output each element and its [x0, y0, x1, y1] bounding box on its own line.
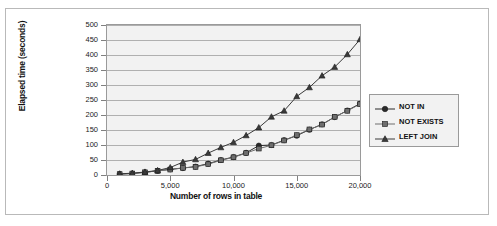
- y-axis-title: Elapsed time (seconds): [17, 6, 27, 126]
- y-axis-tick-label: 50: [72, 155, 98, 164]
- series-layer: [107, 25, 360, 175]
- legend-label: NOT EXISTS: [399, 117, 444, 126]
- series-marker: [269, 143, 274, 148]
- y-axis-tick-label: 450: [72, 35, 98, 44]
- legend-marker-icon: [374, 116, 396, 128]
- series-marker: [332, 114, 337, 119]
- series-marker: [243, 132, 249, 138]
- x-axis-tick-label: 0: [85, 181, 129, 190]
- series-marker: [231, 139, 237, 145]
- x-axis-tick-mark: [107, 176, 108, 181]
- series-marker: [319, 73, 325, 79]
- legend-label: LEFT JOIN: [399, 132, 437, 141]
- series-marker: [193, 156, 199, 162]
- series-marker: [244, 151, 249, 156]
- series-marker: [206, 162, 211, 167]
- gridline-horizontal: [107, 175, 360, 176]
- line-chart: Elapsed time (seconds) Number of rows in…: [6, 9, 490, 216]
- series-marker: [256, 146, 261, 151]
- y-axis-tick-label: 250: [72, 95, 98, 104]
- series-line: [120, 39, 360, 173]
- series-marker: [205, 150, 211, 156]
- series-marker: [357, 36, 360, 42]
- legend-item[interactable]: LEFT JOIN: [374, 129, 458, 144]
- series-marker: [307, 127, 312, 132]
- y-axis-tick-label: 0: [72, 170, 98, 179]
- series-marker: [358, 102, 360, 107]
- legend-label: NOT IN: [399, 102, 424, 111]
- series-marker: [294, 133, 299, 138]
- y-axis-tick-label: 350: [72, 65, 98, 74]
- y-axis-tick-label: 500: [72, 20, 98, 29]
- series-marker: [282, 138, 287, 143]
- x-axis-tick-mark: [297, 176, 298, 181]
- y-axis-tick-label: 200: [72, 110, 98, 119]
- y-axis-tick-label: 400: [72, 50, 98, 59]
- series-marker: [320, 122, 325, 127]
- x-axis-tick-label: 15,000: [275, 181, 319, 190]
- x-axis-title: Number of rows in table: [76, 191, 356, 201]
- legend-item[interactable]: NOT IN: [374, 99, 458, 114]
- legend-item[interactable]: NOT EXISTS: [374, 114, 458, 129]
- chart-figure-frame: Elapsed time (seconds) Number of rows in…: [5, 8, 489, 215]
- series-marker: [181, 165, 186, 170]
- legend-marker-icon: [374, 101, 396, 113]
- y-axis-tick-label: 100: [72, 140, 98, 149]
- x-axis-tick-label: 10,000: [212, 181, 256, 190]
- y-axis-tick-label: 300: [72, 80, 98, 89]
- series-marker: [294, 93, 300, 99]
- plot-area: [106, 24, 361, 176]
- x-axis-tick-label: 5,000: [148, 181, 192, 190]
- x-axis-tick-mark: [234, 176, 235, 181]
- series-marker: [218, 158, 223, 163]
- series-marker: [268, 114, 274, 120]
- series-marker: [231, 155, 236, 160]
- y-axis-tick-label: 150: [72, 125, 98, 134]
- chart-legend: NOT INNOT EXISTSLEFT JOIN: [369, 94, 459, 147]
- series-marker: [345, 108, 350, 113]
- x-axis-tick-label: 20,000: [338, 181, 382, 190]
- legend-marker-icon: [374, 131, 396, 143]
- series-marker: [193, 165, 198, 170]
- x-axis-tick-mark: [360, 176, 361, 181]
- x-axis-tick-mark: [170, 176, 171, 181]
